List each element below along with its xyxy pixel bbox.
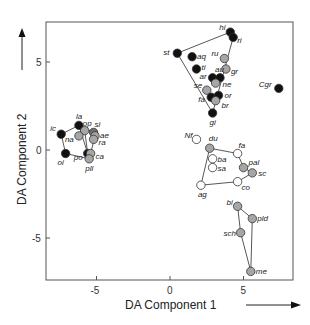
- point-label: ra: [99, 138, 107, 147]
- point-label: pll: [84, 164, 93, 173]
- point-label: la: [76, 112, 83, 121]
- point-label: or: [225, 91, 232, 100]
- data-point-ba: [208, 155, 216, 163]
- data-point-pld: [248, 214, 256, 222]
- point-label: ri: [237, 36, 242, 45]
- point-label: ru: [211, 49, 219, 58]
- point-label: Cgr: [259, 80, 272, 89]
- point-label: oi: [58, 158, 64, 167]
- data-point-br: [211, 97, 219, 105]
- x-tick-label: -5: [91, 285, 100, 296]
- point-label: ne: [223, 80, 232, 89]
- data-point-sa: [208, 163, 216, 171]
- x-axis-label: DA Component 1: [125, 298, 217, 312]
- data-point-pal: [239, 163, 247, 171]
- point-label: ag: [198, 190, 207, 199]
- data-point-sc: [248, 169, 256, 177]
- y-axis-label: DA Component 2: [15, 113, 29, 205]
- data-point-gi: [208, 109, 216, 117]
- point-label: ic: [50, 124, 56, 133]
- x-direction-arrow-icon: [246, 302, 301, 309]
- data-point-ne: [211, 79, 219, 87]
- data-point-me: [247, 267, 255, 275]
- data-point-ra: [89, 135, 97, 143]
- data-point-bi: [233, 202, 241, 210]
- point-label: sa: [218, 164, 227, 173]
- y-tick-label: 5: [36, 57, 42, 68]
- point-label: na: [65, 135, 74, 144]
- point-label: du: [209, 134, 218, 143]
- point-label: ca: [96, 152, 105, 161]
- point-label: ba: [218, 155, 227, 164]
- point-label: sch: [224, 229, 237, 238]
- data-point-ag: [197, 181, 205, 189]
- data-point-fa: [233, 149, 241, 157]
- point-label: me: [256, 267, 268, 276]
- data-point-sch: [236, 229, 244, 237]
- point-label: ti: [202, 63, 206, 72]
- y-tick-label: 0: [36, 145, 42, 156]
- data-point-du: [206, 144, 214, 152]
- point-label: st: [163, 48, 170, 57]
- y-direction-arrow-icon: [19, 28, 26, 70]
- data-point-ru: [220, 54, 228, 62]
- data-point-oi: [61, 149, 69, 157]
- x-tick-label: 0: [167, 285, 173, 296]
- point-label: se: [194, 81, 203, 90]
- data-points: hiristaqtirugrarauneseorfabrgiCgrlaicops…: [50, 23, 283, 276]
- data-point-ri: [229, 33, 237, 41]
- point-label: fa: [239, 141, 246, 150]
- point-label: fa: [198, 95, 205, 104]
- point-label: aq: [197, 52, 206, 61]
- y-axis-ticks: -505: [32, 57, 50, 244]
- point-label: hi: [219, 23, 225, 32]
- data-point-Cgr: [275, 84, 283, 92]
- point-label: pal: [248, 158, 260, 167]
- data-point-pll: [85, 155, 93, 163]
- point-label: au: [215, 65, 224, 74]
- data-point-co: [233, 178, 241, 186]
- point-label: ar: [200, 72, 207, 81]
- point-label: bi: [227, 198, 233, 207]
- x-axis-ticks: -505: [91, 276, 247, 296]
- x-tick-label: 5: [241, 285, 247, 296]
- data-point-na: [75, 132, 83, 140]
- point-label: po: [73, 153, 83, 162]
- data-point-st: [173, 49, 181, 57]
- point-label: si: [95, 120, 101, 129]
- point-label: br: [222, 101, 229, 110]
- scatter-chart: hiristaqtirugrarauneseorfabrgiCgrlaicops…: [0, 0, 310, 325]
- point-label: gi: [210, 118, 216, 127]
- point-label: Nf: [185, 131, 194, 140]
- point-label: op: [83, 119, 92, 128]
- plot-frame: [46, 22, 293, 280]
- data-point-aq: [188, 53, 196, 61]
- y-tick-label: -5: [32, 233, 41, 244]
- data-point-Nf: [192, 135, 200, 143]
- point-label: gr: [231, 67, 238, 76]
- point-label: pld: [256, 214, 268, 223]
- point-label: co: [242, 183, 251, 192]
- point-label: sc: [258, 169, 266, 178]
